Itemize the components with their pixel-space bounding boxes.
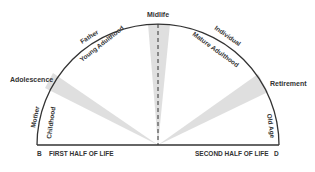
childhood-label: Childhood bbox=[45, 106, 56, 139]
adolescence-label: Adolescence bbox=[10, 76, 53, 83]
midlife-label: Midlife bbox=[147, 11, 169, 18]
retirement-label: Retirement bbox=[270, 80, 307, 87]
retirement-wedge bbox=[158, 74, 268, 145]
second-half-label: SECOND HALF OF LIFE bbox=[195, 150, 269, 157]
adolescence-wedge bbox=[45, 73, 158, 145]
first-half-label: FIRST HALF OF LIFE bbox=[49, 150, 114, 157]
midlife-wedge bbox=[148, 24, 170, 145]
old-age-label: Old Age bbox=[265, 113, 276, 139]
young-adulthood-label: Young Adulthood bbox=[78, 24, 125, 63]
individual-label: Individual bbox=[213, 24, 242, 47]
life-stages-diagram: Midlife Adolescence Retirement Father In… bbox=[0, 0, 315, 172]
point-b-label: B bbox=[37, 150, 42, 157]
point-d-label: D bbox=[274, 150, 279, 157]
